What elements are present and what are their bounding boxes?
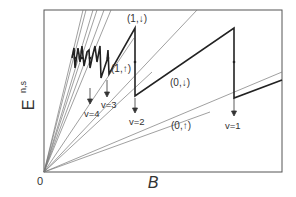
- level-label-1-up: (1,↑): [111, 63, 131, 74]
- y-axis-label-main: E: [20, 100, 37, 111]
- x-axis-label: B: [148, 174, 159, 191]
- y-axis-label: E n,s: [18, 80, 37, 110]
- level-label-0-down: (0,↓): [170, 77, 190, 88]
- filling-label-v2: v=2: [129, 116, 145, 127]
- level-label-0-up: (0,↑): [171, 120, 191, 131]
- level-label-1-down: (1,↓): [127, 13, 147, 24]
- filling-label-v1: v=1: [225, 120, 241, 131]
- y-axis-label-subscript: n,s: [18, 80, 28, 93]
- filling-label-v4: v=4: [84, 108, 100, 119]
- landau-level-diagram: (1,↓) (1,↑) (0,↓) (0,↑) v=4 v=3 v=2 v=1 …: [0, 0, 296, 197]
- origin-label: 0: [37, 175, 43, 187]
- landau-level-rays: [44, 10, 282, 172]
- filling-label-v3: v=3: [101, 99, 117, 110]
